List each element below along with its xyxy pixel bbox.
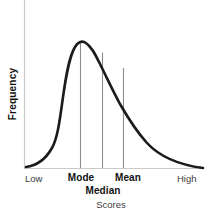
x-axis-title: Scores: [96, 200, 126, 210]
mean-label: Mean: [115, 173, 141, 183]
median-label: Median: [85, 186, 120, 196]
y-axis-title: Frequency: [8, 59, 18, 129]
mode-label: Mode: [68, 173, 95, 183]
distribution-curve: [26, 42, 203, 168]
distribution-chart: Frequency Low High Mode Mean Median Scor…: [0, 0, 207, 215]
x-axis-tick-high: High: [177, 174, 197, 184]
x-axis-tick-low: Low: [25, 174, 42, 184]
